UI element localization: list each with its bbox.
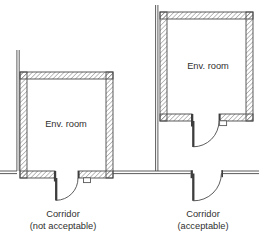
right-room-door-swing-arc bbox=[193, 121, 219, 147]
right-room-wall-top bbox=[160, 12, 253, 19]
left-example: Env. room Corridor (not acceptable) bbox=[0, 50, 113, 231]
right-room-wall-bottom-left bbox=[160, 114, 192, 121]
right-room-wall-left bbox=[160, 12, 167, 121]
right-room-door-jamb-right bbox=[219, 114, 221, 121]
right-corridor-label: Corridor bbox=[186, 209, 220, 219]
left-room-wall-left bbox=[20, 72, 27, 178]
right-partition-wall bbox=[156, 5, 158, 171]
floor-plan-figure: Env. room Corridor (not acceptable) bbox=[0, 0, 259, 243]
left-corridor-note: (not acceptable) bbox=[30, 221, 97, 231]
left-door-jamb-right bbox=[78, 171, 80, 178]
left-room-wall-right bbox=[106, 72, 113, 178]
left-room-wall-top bbox=[20, 72, 113, 79]
left-room-label: Env. room bbox=[45, 119, 87, 129]
right-room-label: Env. room bbox=[187, 61, 229, 71]
right-example: Env. room Corridor (acceptable) bbox=[156, 5, 253, 231]
left-corridor-wall bbox=[0, 171, 17, 174]
left-room-wall-bottom-right bbox=[78, 171, 113, 178]
right-corridor-note: (acceptable) bbox=[177, 221, 228, 231]
left-partition-wall bbox=[17, 50, 19, 171]
right-corridor-door-symbol bbox=[191, 170, 223, 201]
floor-plan-svg: Env. room Corridor (not acceptable) bbox=[0, 0, 259, 243]
left-door-swing-arc bbox=[56, 178, 78, 200]
left-room-wall-bottom-left bbox=[20, 171, 55, 178]
right-room-door-hardware-icon bbox=[220, 121, 227, 126]
right-room-wall-right bbox=[246, 12, 253, 121]
right-room-wall-bottom-right bbox=[219, 114, 253, 121]
right-corridor-door-swing-arc bbox=[193, 174, 221, 201]
left-corridor-label: Corridor bbox=[46, 209, 80, 219]
corridor-wall-center bbox=[113, 171, 259, 174]
left-door-hardware-icon bbox=[84, 178, 91, 183]
